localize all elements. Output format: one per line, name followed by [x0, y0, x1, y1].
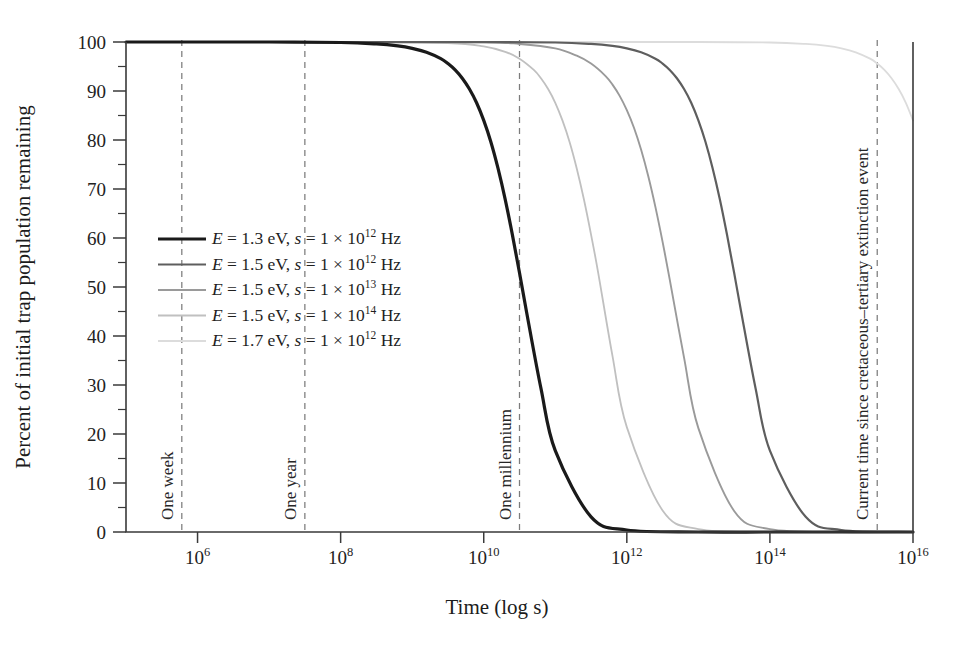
y-tick-label-0: 0: [97, 522, 107, 543]
chart-plot-svg: 1061081010101210141016 01020304050607080…: [0, 0, 968, 646]
y-tick-label-6: 60: [87, 228, 106, 249]
y-tick-label-9: 90: [87, 81, 106, 102]
y-axis-title: Percent of initial trap population remai…: [11, 105, 35, 469]
y-tick-label-10: 100: [78, 32, 107, 53]
y-tick-label-1: 10: [87, 473, 106, 494]
annotation-label-1: One year: [281, 458, 300, 520]
y-tick-label-2: 20: [87, 424, 106, 445]
x-axis-title: Time (log s): [445, 595, 548, 619]
y-tick-label-5: 50: [87, 277, 106, 298]
chart-figure: 1061081010101210141016 01020304050607080…: [0, 0, 968, 646]
y-tick-label-4: 40: [87, 326, 106, 347]
annotation-label-3: Current time since cretaceous–tertiary e…: [853, 147, 872, 520]
y-tick-label-3: 30: [87, 375, 106, 396]
annotation-label-0: One week: [158, 451, 177, 520]
annotation-label-2: One millennium: [496, 409, 515, 520]
y-tick-label-8: 80: [87, 130, 106, 151]
y-tick-label-7: 70: [87, 179, 106, 200]
